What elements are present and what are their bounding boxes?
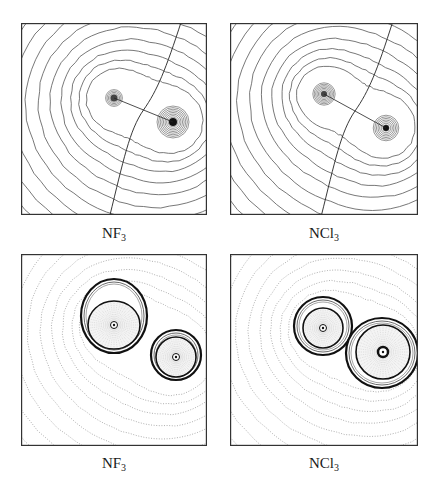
caption-nf3-top: NF3: [14, 225, 214, 243]
panel-nf3-density: [21, 23, 207, 215]
panel-nf3-laplacian: [21, 254, 207, 446]
panel-ncl3-laplacian: [230, 254, 418, 446]
caption-nf3-bottom: NF3: [14, 455, 214, 473]
caption-ncl3-bottom: NCl3: [224, 455, 424, 473]
caption-ncl3-top: NCl3: [224, 225, 424, 243]
panel-ncl3-density: [230, 23, 418, 215]
